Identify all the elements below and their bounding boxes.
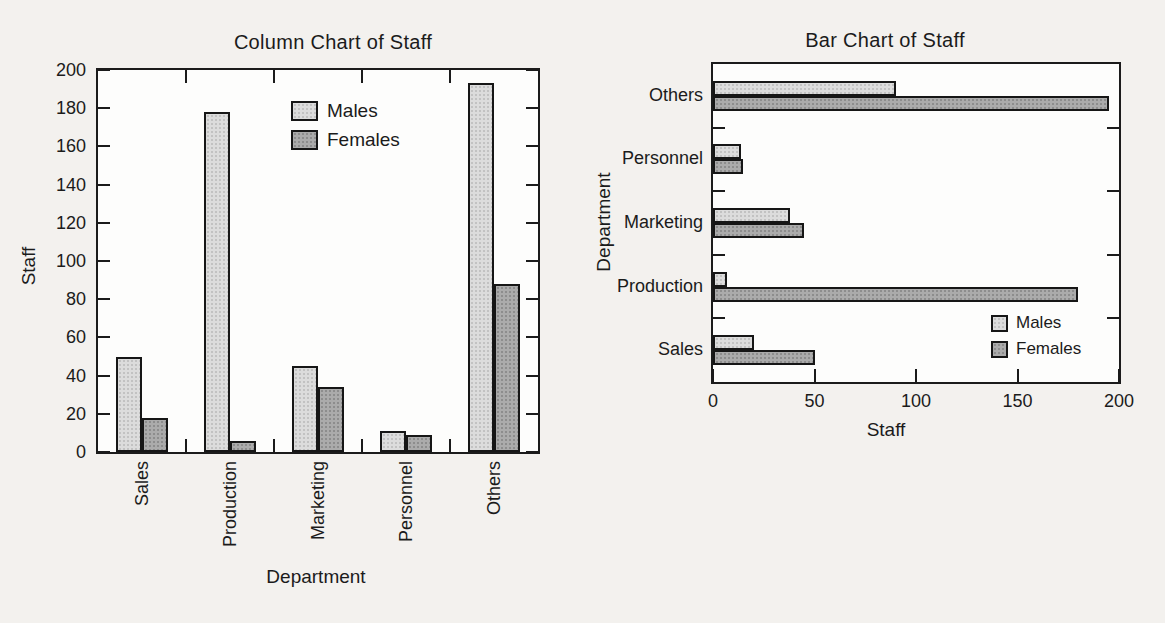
- column-chart-x-axis-label: Department: [266, 566, 365, 588]
- x-axis-tick: [915, 369, 917, 382]
- y-tick-label: 200: [26, 59, 86, 81]
- y-tick-label: 180: [26, 97, 86, 119]
- x-tick-label: 150: [978, 390, 1058, 412]
- y-axis-tick-right: [526, 222, 538, 224]
- category-label-marketing: Marketing: [308, 461, 329, 540]
- y-axis-tick-right: [526, 69, 538, 71]
- group-boundary-tick-right: [1107, 254, 1119, 256]
- bar-chart-x-axis-label: Staff: [867, 419, 906, 441]
- x-axis-tick: [712, 369, 714, 382]
- group-boundary-tick-left: [713, 127, 725, 129]
- legend-item-females: Females: [291, 129, 400, 151]
- y-tick-label: 140: [26, 174, 86, 196]
- x-tick-label: 50: [775, 390, 855, 412]
- y-axis-tick-left: [98, 69, 110, 71]
- y-axis-tick-right: [526, 375, 538, 377]
- x-axis-tick: [814, 369, 816, 382]
- column-chart-title: Column Chart of Staff: [234, 31, 432, 54]
- bar-chart-legend: Males Females: [991, 313, 1081, 359]
- group-boundary-tick-right: [1107, 127, 1119, 129]
- y-axis-tick-left: [98, 184, 110, 186]
- y-tick-label: 40: [26, 365, 86, 387]
- group-boundary-tick-top: [273, 70, 275, 83]
- category-label-production: Production: [581, 276, 703, 297]
- males-swatch-icon: [991, 315, 1008, 332]
- bar-sales-males: [116, 357, 142, 453]
- y-tick-label: 80: [26, 288, 86, 310]
- males-swatch-icon: [291, 101, 318, 121]
- column-chart-legend: Males Females: [291, 100, 400, 151]
- group-boundary-tick-left: [713, 317, 725, 319]
- bar-production-females: [230, 441, 256, 452]
- x-axis-tick: [1017, 369, 1019, 382]
- males-legend-label: Males: [327, 100, 378, 122]
- y-tick-label: 100: [26, 250, 86, 272]
- group-boundary-tick-left: [713, 254, 725, 256]
- bar-sales-males: [713, 335, 754, 350]
- y-axis-tick-right: [526, 336, 538, 338]
- females-swatch-icon: [291, 130, 318, 150]
- category-label-personnel: Personnel: [581, 148, 703, 169]
- bar-marketing-females: [318, 387, 344, 452]
- bar-others-males: [468, 83, 494, 452]
- y-axis-tick-right: [526, 260, 538, 262]
- bar-sales-females: [713, 350, 815, 365]
- legend-item-males: Males: [991, 313, 1081, 333]
- y-tick-label: 160: [26, 135, 86, 157]
- bar-production-males: [204, 112, 230, 452]
- bar-others-males: [713, 81, 896, 96]
- y-axis-tick-right: [526, 451, 538, 453]
- bar-personnel-males: [380, 431, 406, 452]
- group-boundary-tick-bottom: [273, 439, 275, 452]
- y-axis-tick-right: [526, 184, 538, 186]
- y-axis-tick-left: [98, 413, 110, 415]
- group-boundary-tick-right: [1107, 190, 1119, 192]
- x-axis-tick: [1118, 369, 1120, 382]
- y-axis-tick-left: [98, 451, 110, 453]
- y-tick-label: 120: [26, 212, 86, 234]
- figure-canvas: Column Chart of Staff Staff Department M…: [0, 0, 1165, 623]
- bar-marketing-males: [713, 208, 790, 223]
- group-boundary-tick-top: [361, 70, 363, 83]
- y-axis-tick-left: [98, 375, 110, 377]
- group-boundary-tick-left: [713, 190, 725, 192]
- y-axis-tick-right: [526, 413, 538, 415]
- category-label-marketing: Marketing: [581, 212, 703, 233]
- y-axis-tick-left: [98, 336, 110, 338]
- category-label-others: Others: [581, 85, 703, 106]
- category-label-sales: Sales: [581, 339, 703, 360]
- legend-item-females: Females: [991, 339, 1081, 359]
- y-tick-label: 20: [26, 403, 86, 425]
- group-boundary-tick-bottom: [449, 439, 451, 452]
- bar-marketing-males: [292, 366, 318, 452]
- group-boundary-tick-bottom: [361, 439, 363, 452]
- y-axis-tick-right: [526, 107, 538, 109]
- males-legend-label: Males: [1016, 313, 1061, 333]
- y-axis-tick-left: [98, 260, 110, 262]
- x-tick-label: 200: [1079, 390, 1159, 412]
- y-axis-tick-left: [98, 298, 110, 300]
- y-tick-label: 0: [26, 441, 86, 463]
- category-label-production: Production: [220, 461, 241, 547]
- bar-production-males: [713, 272, 727, 287]
- y-axis-tick-left: [98, 145, 110, 147]
- bar-production-females: [713, 287, 1078, 302]
- y-axis-tick-right: [526, 145, 538, 147]
- females-legend-label: Females: [327, 129, 400, 151]
- y-axis-tick-right: [526, 298, 538, 300]
- group-boundary-tick-top: [185, 70, 187, 83]
- bar-personnel-females: [713, 159, 743, 174]
- category-label-sales: Sales: [132, 461, 153, 506]
- x-tick-label: 0: [673, 390, 753, 412]
- bar-others-females: [494, 284, 520, 452]
- bar-sales-females: [142, 418, 168, 452]
- bar-others-females: [713, 96, 1109, 111]
- y-axis-tick-left: [98, 107, 110, 109]
- group-boundary-tick-top: [449, 70, 451, 83]
- females-legend-label: Females: [1016, 339, 1081, 359]
- group-boundary-tick-right: [1107, 317, 1119, 319]
- bar-personnel-females: [406, 435, 432, 452]
- females-swatch-icon: [991, 341, 1008, 358]
- bar-chart-title: Bar Chart of Staff: [805, 29, 965, 52]
- category-label-personnel: Personnel: [396, 461, 417, 542]
